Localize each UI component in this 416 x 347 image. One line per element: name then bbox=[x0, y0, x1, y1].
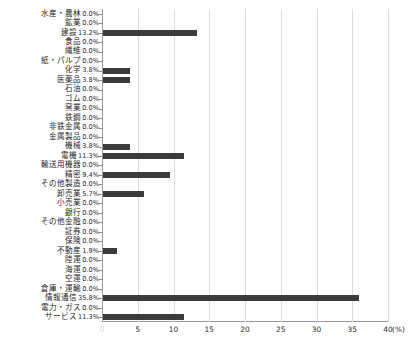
bar-row bbox=[102, 284, 388, 293]
y-axis-tick bbox=[99, 137, 102, 138]
x-tick-label-20: 20 bbox=[240, 325, 249, 334]
category-label: 医薬品3.8% bbox=[57, 76, 99, 84]
category-value: 0.0% bbox=[82, 209, 99, 217]
category-name: ゴム bbox=[65, 94, 81, 103]
category-value: 3.8% bbox=[82, 142, 99, 150]
bar-row bbox=[102, 104, 388, 113]
y-axis-tick bbox=[99, 128, 102, 129]
category-name: 卸売業 bbox=[57, 189, 81, 198]
bar-row bbox=[102, 47, 388, 56]
category-value: 0.0% bbox=[82, 10, 99, 18]
gridline-40 bbox=[388, 9, 389, 322]
bar-row bbox=[102, 113, 388, 122]
category-value: 0.0% bbox=[82, 161, 99, 169]
y-axis-tick bbox=[99, 61, 102, 62]
y-axis-tick bbox=[99, 289, 102, 290]
category-name: 石油 bbox=[65, 84, 81, 93]
y-axis-tick bbox=[99, 52, 102, 53]
category-name: 医薬品 bbox=[57, 75, 81, 84]
x-tick-label-25: 25 bbox=[276, 325, 285, 334]
x-tick-label-0: 0 bbox=[100, 325, 105, 334]
category-value: 0.0% bbox=[82, 218, 99, 226]
bar-row bbox=[102, 151, 388, 160]
bar-row bbox=[102, 180, 388, 189]
category-label: 電機11.3% bbox=[61, 152, 99, 160]
category-value: 0.0% bbox=[82, 114, 99, 122]
category-name: 電機 bbox=[61, 151, 77, 160]
category-name: 海運 bbox=[65, 265, 81, 274]
category-label: 小売業0.0% bbox=[57, 199, 99, 207]
x-tick-label-35: 35 bbox=[348, 325, 357, 334]
y-axis-tick bbox=[99, 109, 102, 110]
bar-row bbox=[102, 37, 388, 46]
bar bbox=[103, 172, 170, 178]
bar-row bbox=[102, 170, 388, 179]
category-name: 金属製品 bbox=[49, 132, 81, 141]
bar-row bbox=[102, 142, 388, 151]
category-value: 0.0% bbox=[82, 304, 99, 312]
bar-row bbox=[102, 227, 388, 236]
category-name: 倉庫・運輸 bbox=[41, 284, 81, 293]
category-label: 鉄鋼0.0% bbox=[65, 114, 99, 122]
y-axis-tick bbox=[99, 71, 102, 72]
category-label: 陸運0.0% bbox=[65, 256, 99, 264]
category-name: 輸送用機器 bbox=[41, 160, 81, 169]
category-name: 不動産 bbox=[57, 246, 81, 255]
bar-row bbox=[102, 56, 388, 65]
y-axis-tick bbox=[99, 251, 102, 252]
category-label: 倉庫・運輸0.0% bbox=[41, 285, 99, 293]
y-axis-tick bbox=[99, 241, 102, 242]
category-label: 銀行0.0% bbox=[65, 209, 99, 217]
category-label: 輸送用機器0.0% bbox=[41, 161, 99, 169]
category-name: 精密 bbox=[65, 170, 81, 179]
category-value: 0.0% bbox=[82, 95, 99, 103]
bar-row bbox=[102, 9, 388, 18]
category-value: 0.0% bbox=[82, 180, 99, 188]
category-value: 0.0% bbox=[82, 256, 99, 264]
y-axis-tick bbox=[99, 118, 102, 119]
category-value: 0.0% bbox=[82, 85, 99, 93]
category-label: 保険0.0% bbox=[65, 237, 99, 245]
y-axis-tick bbox=[99, 14, 102, 15]
category-label: 卸売業5.7% bbox=[57, 190, 99, 198]
bar-row bbox=[102, 199, 388, 208]
category-name: 水産・農林 bbox=[41, 9, 81, 18]
y-axis-tick bbox=[99, 99, 102, 100]
category-name: 繊維 bbox=[65, 46, 81, 55]
bar-rows bbox=[102, 9, 388, 322]
category-name: 陸運 bbox=[65, 255, 81, 264]
y-axis-tick bbox=[99, 260, 102, 261]
category-label: 食品0.0% bbox=[65, 38, 99, 46]
bar-row bbox=[102, 189, 388, 198]
x-tick-label-10: 10 bbox=[169, 325, 178, 334]
y-axis-tick bbox=[99, 270, 102, 271]
category-label-column: 水産・農林0.0%鉱業0.0%建設13.2%食品0.0%繊維0.0%紙・パルプ0… bbox=[0, 9, 99, 322]
category-value: 0.0% bbox=[82, 266, 99, 274]
category-value: 0.0% bbox=[82, 228, 99, 236]
bar-row bbox=[102, 132, 388, 141]
category-label: 紙・パルプ0.0% bbox=[41, 57, 99, 65]
y-axis-tick bbox=[99, 165, 102, 166]
bar bbox=[103, 30, 197, 36]
y-axis-tick bbox=[99, 147, 102, 148]
category-value: 0.0% bbox=[82, 38, 99, 46]
bar-row bbox=[102, 85, 388, 94]
bar-row bbox=[102, 246, 388, 255]
y-axis-tick bbox=[99, 23, 102, 24]
bar-row bbox=[102, 218, 388, 227]
category-label: その他金融0.0% bbox=[41, 218, 99, 226]
category-name: その他金融 bbox=[41, 217, 81, 226]
y-axis-tick bbox=[99, 213, 102, 214]
category-name: 鉱業 bbox=[65, 18, 81, 27]
category-label: 窯業0.0% bbox=[65, 104, 99, 112]
y-axis-tick bbox=[99, 80, 102, 81]
bar-row bbox=[102, 28, 388, 37]
y-axis-tick bbox=[99, 279, 102, 280]
category-value: 0.0% bbox=[82, 19, 99, 27]
bar-row bbox=[102, 313, 388, 322]
category-label: 精密9.4% bbox=[65, 171, 99, 179]
category-name: 機械 bbox=[65, 141, 81, 150]
bar-row bbox=[102, 123, 388, 132]
bar-row bbox=[102, 294, 388, 303]
bar bbox=[103, 153, 184, 159]
